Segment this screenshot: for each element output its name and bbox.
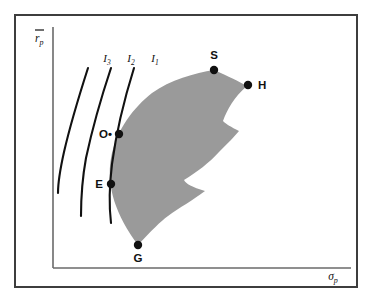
point-marker-e xyxy=(107,180,115,188)
point-marker-g xyxy=(134,241,142,249)
point-label-o-star: O• xyxy=(99,128,112,140)
point-label-s: S xyxy=(210,49,218,61)
indifference-curve-label-i1: I1 xyxy=(150,52,158,67)
point-marker-s xyxy=(210,66,218,74)
x-axis-label-sub: p xyxy=(333,276,338,285)
figure-container: I3 I2 I1 S H O• E G rp σp xyxy=(0,0,376,305)
y-axis-label: rp xyxy=(35,30,44,47)
indifference-curve-i2 xyxy=(81,68,111,216)
point-label-e: E xyxy=(95,178,103,190)
y-axis-label-sub: p xyxy=(38,38,43,47)
indifference-curve-label-i3: I3 xyxy=(102,52,111,67)
indifference-curve-label-i2: I2 xyxy=(126,52,135,67)
svg-text:rp: rp xyxy=(35,32,43,47)
point-marker-o xyxy=(115,130,123,138)
point-label-g: G xyxy=(134,252,143,264)
plot-canvas: I3 I2 I1 S H O• E G rp σp xyxy=(0,0,376,305)
point-marker-h xyxy=(244,81,252,89)
x-axis-label: σp xyxy=(328,270,338,285)
feasible-region-shape xyxy=(110,70,247,245)
point-label-h: H xyxy=(258,79,266,91)
